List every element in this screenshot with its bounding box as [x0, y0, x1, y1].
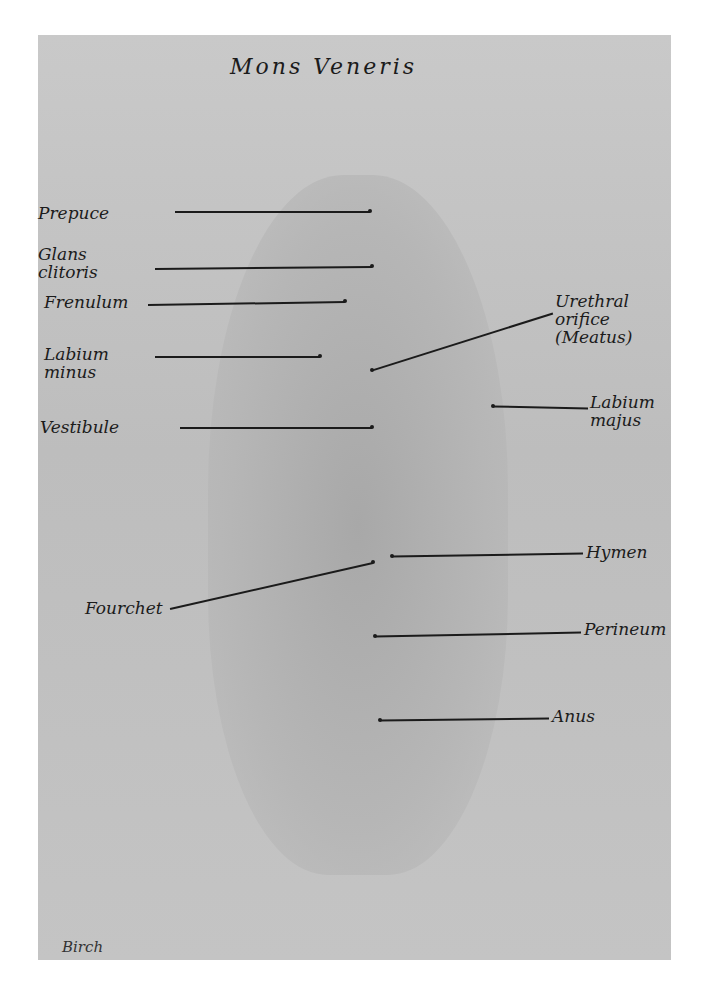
leader-endpoint-urethral-orifice	[370, 368, 374, 372]
artist-signature: Birch	[62, 938, 103, 956]
leader-endpoint-glans-clitoris	[370, 264, 374, 268]
leader-endpoint-anus	[378, 718, 382, 722]
label-prepuce: Prepuce	[38, 204, 109, 222]
label-vestibule: Vestibule	[40, 418, 119, 436]
leader-line-labium-minus	[155, 356, 320, 358]
label-hymen: Hymen	[586, 543, 648, 561]
label-anus: Anus	[552, 707, 595, 725]
label-glans-clitoris: Glans clitoris	[38, 245, 98, 281]
label-perineum: Perineum	[584, 620, 666, 638]
label-frenulum: Frenulum	[44, 293, 128, 311]
leader-line-vestibule	[180, 427, 372, 429]
leader-endpoint-labium-majus	[491, 404, 495, 408]
leader-endpoint-perineum	[373, 634, 377, 638]
label-labium-minus: Labium minus	[44, 345, 109, 381]
label-fourchet: Fourchet	[85, 599, 163, 617]
anatomical-drawing-placeholder	[208, 175, 508, 875]
leader-endpoint-frenulum	[343, 299, 347, 303]
label-labium-majus: Labium majus	[590, 393, 655, 429]
label-urethral-orifice: Urethral orifice (Meatus)	[555, 292, 632, 346]
leader-line-prepuce	[175, 211, 370, 213]
leader-endpoint-labium-minus	[318, 354, 322, 358]
illustration-plate	[38, 35, 671, 960]
leader-endpoint-vestibule	[370, 425, 374, 429]
leader-endpoint-hymen	[390, 554, 394, 558]
leader-endpoint-prepuce	[368, 209, 372, 213]
title-label: Mons Veneris	[230, 58, 417, 76]
leader-endpoint-fourchet	[371, 560, 375, 564]
